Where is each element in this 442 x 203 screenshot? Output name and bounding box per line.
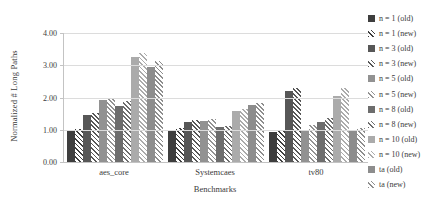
legend-label: n = 10 (old) <box>379 135 417 144</box>
legend-swatch-icon <box>368 75 375 82</box>
gridline <box>64 33 368 34</box>
bar <box>75 129 83 162</box>
legend-label: n = 5 (new) <box>379 90 416 99</box>
bar <box>99 100 107 162</box>
legend-swatch-icon <box>368 30 375 37</box>
x-category-label: tv80 <box>268 167 364 177</box>
y-axis-tick-mark <box>60 33 64 34</box>
y-axis-tick-label: 3.00 <box>0 61 57 70</box>
legend-swatch-icon <box>368 91 375 98</box>
y-axis-tick-label: 2.00 <box>0 93 57 102</box>
x-category-label: Systemcaes <box>167 167 263 177</box>
legend-label: n = 8 (old) <box>379 105 413 114</box>
bar <box>200 121 208 162</box>
legend-swatch-icon <box>368 121 375 128</box>
legend-label: ta (old) <box>379 165 402 174</box>
bar <box>325 118 333 162</box>
bar <box>91 113 99 162</box>
legend-item: ta (old) <box>368 162 442 177</box>
legend-item: n = 3 (new) <box>368 56 442 71</box>
bar <box>240 109 248 162</box>
gridline <box>64 65 368 66</box>
legend-label: ta (new) <box>379 180 405 189</box>
legend-swatch-icon <box>368 106 375 113</box>
bar-chart: Normalized # Long Paths 4.003.002.001.00… <box>0 0 442 203</box>
legend-item: n = 3 (old) <box>368 41 442 56</box>
legend-label: n = 1 (old) <box>379 14 413 23</box>
bar <box>293 88 301 162</box>
bar <box>192 120 200 162</box>
legend-item: n = 8 (old) <box>368 102 442 117</box>
y-axis-tick-labels: 4.003.002.001.000.00 <box>0 33 57 162</box>
bar <box>184 122 192 162</box>
bar <box>139 53 147 162</box>
legend-label: n = 3 (old) <box>379 44 413 53</box>
legend-label: n = 8 (new) <box>379 120 416 129</box>
plot-area <box>63 33 368 163</box>
chart-legend: n = 1 (old)n = 1 (new)n = 3 (old)n = 3 (… <box>368 11 442 192</box>
bar <box>341 88 349 162</box>
legend-label: n = 10 (new) <box>379 150 420 159</box>
legend-swatch-icon <box>368 45 375 52</box>
bar <box>155 61 163 162</box>
legend-label: n = 5 (old) <box>379 74 413 83</box>
bar <box>67 130 75 162</box>
bar <box>123 101 131 162</box>
bar <box>317 122 325 162</box>
bar <box>301 131 309 162</box>
y-axis-tick-mark <box>60 65 64 66</box>
legend-item: n = 1 (new) <box>368 26 442 41</box>
legend-item: n = 5 (old) <box>368 71 442 86</box>
legend-item: n = 8 (new) <box>368 117 442 132</box>
legend-item: ta (new) <box>368 177 442 192</box>
bar <box>168 130 176 162</box>
bar <box>131 57 139 162</box>
bar <box>176 128 184 162</box>
legend-label: n = 1 (new) <box>379 29 416 38</box>
gridline <box>64 98 368 99</box>
bar <box>83 115 91 162</box>
y-axis-tick-mark <box>60 162 64 163</box>
bar <box>349 131 357 162</box>
legend-swatch-icon <box>368 151 375 158</box>
legend-swatch-icon <box>368 60 375 67</box>
x-category-label: aes_core <box>66 167 162 177</box>
x-axis-category-labels: aes_coreSystemcaestv80 <box>63 167 367 177</box>
y-axis-tick-label: 1.00 <box>0 125 57 134</box>
legend-swatch-icon <box>368 15 375 22</box>
y-axis-tick-mark <box>60 130 64 131</box>
legend-item: n = 10 (old) <box>368 132 442 147</box>
legend-swatch-icon <box>368 166 375 173</box>
bar <box>115 106 123 162</box>
legend-swatch-icon <box>368 136 375 143</box>
bar <box>277 130 285 162</box>
bar <box>269 132 277 162</box>
legend-item: n = 10 (new) <box>368 147 442 162</box>
bar <box>147 67 155 162</box>
y-axis-tick-mark <box>60 98 64 99</box>
legend-item: n = 1 (old) <box>368 11 442 26</box>
y-axis-tick-label: 4.00 <box>0 29 57 38</box>
x-axis-title: Benchmarks <box>63 184 367 194</box>
bar <box>256 103 264 162</box>
legend-label: n = 3 (new) <box>379 59 416 68</box>
bar <box>248 105 256 162</box>
bar <box>232 111 240 162</box>
bar <box>285 91 293 162</box>
legend-swatch-icon <box>368 181 375 188</box>
gridline <box>64 130 368 131</box>
y-axis-tick-label: 0.00 <box>0 158 57 167</box>
bar <box>208 119 216 162</box>
bar <box>224 126 232 162</box>
legend-item: n = 5 (new) <box>368 86 442 101</box>
bar <box>216 127 224 162</box>
bar <box>357 128 365 162</box>
